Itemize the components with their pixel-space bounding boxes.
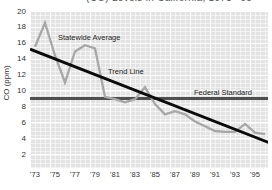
x-tick-label: '83 [124, 170, 146, 179]
y-tick-label: 8 [0, 102, 26, 111]
x-tick-label: '95 [244, 170, 266, 179]
y-tick-label: 16 [0, 38, 26, 47]
y-tick-label: 10 [0, 86, 26, 95]
x-tick-label: '89 [184, 170, 206, 179]
x-tick-label: '81 [104, 170, 126, 179]
x-tick-label: '85 [144, 170, 166, 179]
x-tick-label: '93 [224, 170, 246, 179]
clipped-title-text: (CO) Levels in California, 1973–’95 [86, 0, 252, 3]
x-tick-label: '91 [204, 170, 226, 179]
co-trend-chart: (CO) Levels in California, 1973–’95 CO (… [0, 0, 272, 190]
annotation-trend-line: Trend Line [108, 67, 144, 76]
clipped-title: (CO) Levels in California, 1973–’95 [0, 0, 272, 4]
x-tick-label: '79 [84, 170, 106, 179]
x-tick-label: '73 [24, 170, 46, 179]
y-tick-label: 2 [0, 150, 26, 159]
y-tick-label: 18 [0, 22, 26, 31]
x-tick-label: '87 [164, 170, 186, 179]
annotation-federal-standard: Federal Standard [194, 88, 252, 97]
annotation-statewide-average: Statewide Average [58, 33, 120, 42]
y-tick-label: 20 [0, 7, 26, 16]
x-tick-label: '77 [64, 170, 86, 179]
y-tick-label: 6 [0, 118, 26, 127]
y-tick-label: 4 [0, 134, 26, 143]
x-tick-label: '75 [44, 170, 66, 179]
y-tick-label: 12 [0, 70, 26, 79]
y-tick-label: 14 [0, 54, 26, 63]
